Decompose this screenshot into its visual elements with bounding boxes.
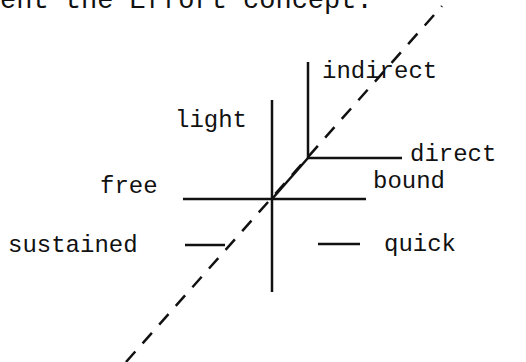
- effort-diagram: [0, 0, 526, 362]
- label-direct: direct: [410, 143, 496, 167]
- label-free: free: [100, 175, 158, 199]
- space-connector: [272, 158, 308, 199]
- label-quick: quick: [384, 233, 456, 257]
- label-sustained: sustained: [8, 234, 138, 258]
- label-indirect: indirect: [322, 60, 437, 84]
- label-bound: bound: [373, 170, 445, 194]
- label-light: light: [175, 109, 247, 133]
